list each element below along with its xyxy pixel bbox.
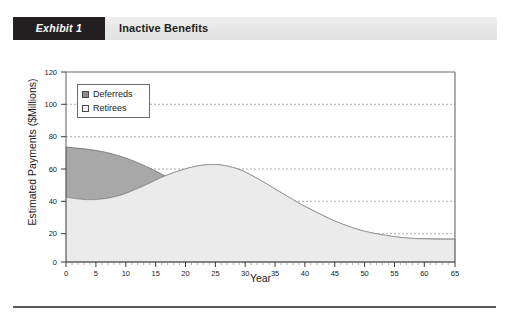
exhibit-title: Inactive Benefits [119,17,208,40]
y-axis-tick-labels: 120 100 80 60 40 20 0 [44,68,57,267]
y-axis-ticks [61,72,66,262]
legend-item-retirees: Retirees [82,102,149,115]
y-tick-label: 40 [49,197,57,206]
x-axis-title: Year [66,272,455,284]
exhibit-banner: Exhibit 1 Inactive Benefits [13,17,497,40]
chart-container: 120 100 80 60 40 20 0 [0,46,510,296]
light-gray-swatch-icon [82,105,89,112]
y-tick-label: 60 [49,165,57,174]
legend-label: Retirees [93,104,127,113]
y-tick-label: 80 [49,132,57,141]
chart-legend: Deferreds Retirees [77,84,150,118]
legend-label: Deferreds [93,90,133,99]
bottom-divider [13,306,496,308]
y-tick-label: 120 [44,68,57,77]
legend-item-deferreds: Deferreds [82,88,149,101]
y-axis-title: Estimated Payments ($Millions) [26,57,38,247]
exhibit-number-label: Exhibit 1 [13,17,105,40]
x-axis-ticks [66,262,455,267]
y-tick-label: 0 [53,258,57,267]
y-tick-label: 20 [49,229,57,238]
dark-gray-swatch-icon [82,91,89,98]
y-tick-label: 100 [44,100,57,109]
exhibit-number-tab: Exhibit 1 [13,17,105,40]
